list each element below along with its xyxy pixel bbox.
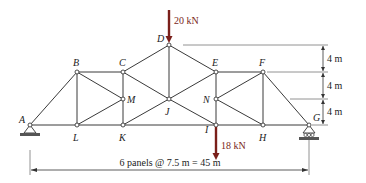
member-AB bbox=[30, 72, 77, 125]
load-label: 18 kN bbox=[221, 140, 246, 151]
truss-diagram: ALKIHGBCEFDMJN 20 kN18 kN 6 panels @ 7.5… bbox=[0, 0, 366, 183]
member-DE bbox=[169, 45, 216, 72]
joint-label-M: M bbox=[126, 94, 136, 105]
joint-label-F: F bbox=[258, 57, 266, 68]
joint-I bbox=[214, 123, 218, 127]
joint-F bbox=[261, 70, 265, 74]
joint-K bbox=[121, 123, 125, 127]
load-label: 20 kN bbox=[174, 15, 199, 26]
member-NH bbox=[216, 99, 263, 125]
supports bbox=[20, 125, 319, 140]
joint-label-H: H bbox=[258, 132, 267, 143]
joint-L bbox=[75, 123, 79, 127]
joint-E bbox=[214, 70, 218, 74]
load-arrow-icon bbox=[213, 127, 220, 160]
joint-C bbox=[121, 70, 125, 74]
joint-D bbox=[167, 43, 171, 47]
joint-label-I: I bbox=[204, 124, 209, 135]
joint-label-G: G bbox=[313, 112, 320, 123]
height-dimension: 4 m bbox=[321, 46, 343, 71]
member-FN bbox=[216, 72, 263, 99]
joint-B bbox=[75, 70, 79, 74]
joint-label-N: N bbox=[202, 94, 211, 105]
height-dimension-label: 4 m bbox=[327, 106, 343, 117]
joint-A bbox=[28, 123, 32, 127]
member-FG bbox=[263, 72, 309, 125]
height-dimension-label: 4 m bbox=[327, 80, 343, 91]
joint-label-K: K bbox=[118, 132, 127, 143]
joint-label-C: C bbox=[119, 57, 126, 68]
truss-members bbox=[30, 45, 309, 125]
joint-H bbox=[261, 123, 265, 127]
span-dimension-label: 6 panels @ 7.5 m = 45 m bbox=[120, 157, 221, 168]
load-arrow-icon bbox=[166, 10, 173, 43]
applied-loads: 20 kN18 kN bbox=[166, 10, 246, 160]
joint-M bbox=[121, 97, 125, 101]
member-BM bbox=[77, 72, 123, 99]
joint-label-B: B bbox=[73, 57, 79, 68]
joint-label-A: A bbox=[18, 114, 26, 125]
height-dimension: 4 m bbox=[321, 73, 343, 98]
joint-J bbox=[167, 97, 171, 101]
member-CD bbox=[123, 45, 169, 72]
member-LM bbox=[77, 99, 123, 125]
extension-lines bbox=[183, 45, 328, 125]
joint-G bbox=[307, 123, 311, 127]
joint-label-D: D bbox=[156, 33, 165, 44]
joint-label-J: J bbox=[165, 106, 170, 117]
height-dimension: 4 m bbox=[321, 100, 343, 124]
joint-label-L: L bbox=[72, 132, 79, 143]
joint-label-E: E bbox=[211, 57, 218, 68]
joint-N bbox=[214, 97, 218, 101]
height-dimension-label: 4 m bbox=[327, 53, 343, 64]
